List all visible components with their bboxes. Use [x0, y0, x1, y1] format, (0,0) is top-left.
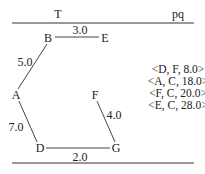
header-pq: pq — [172, 8, 184, 20]
weight-D-G: 2.0 — [73, 151, 88, 163]
pq-item: <E, C, 28.0> — [148, 99, 205, 111]
weight-B-A: 5.0 — [18, 56, 33, 68]
node-G: G — [112, 142, 121, 154]
pq-item: <D, F, 8.0> — [152, 63, 205, 75]
header-t: T — [54, 8, 61, 20]
node-E: E — [101, 32, 108, 44]
node-B: B — [44, 32, 52, 44]
weight-F-G: 4.0 — [107, 109, 122, 121]
weight-B-E: 3.0 — [73, 24, 88, 36]
node-F: F — [92, 89, 99, 101]
node-D: D — [36, 142, 45, 154]
node-A: A — [12, 89, 21, 101]
pq-item: <F, C, 20.0> — [149, 87, 205, 99]
weight-A-D: 7.0 — [9, 121, 24, 133]
pq-item: <A, C, 18.0> — [148, 75, 205, 87]
